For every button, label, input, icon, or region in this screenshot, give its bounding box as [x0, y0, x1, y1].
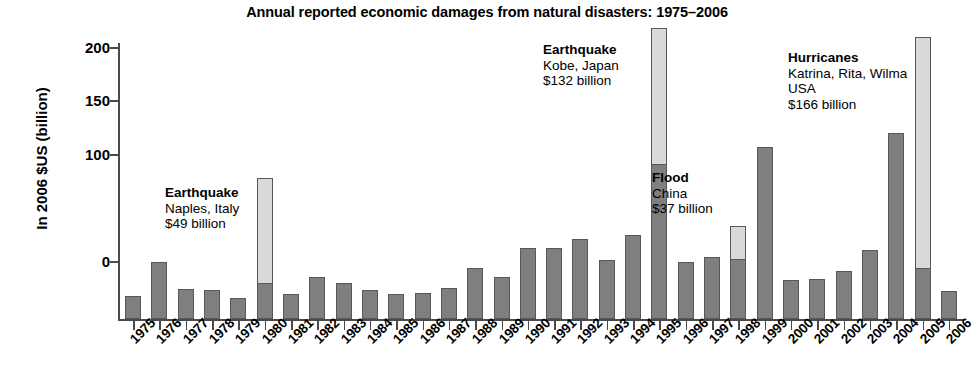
- annotation-china-flood: FloodChina$37 billion: [652, 170, 713, 217]
- chart-title: Annual reported economic damages from na…: [0, 4, 974, 20]
- bar-segment-base: [625, 235, 641, 319]
- annotation-title: Earthquake: [165, 185, 239, 201]
- annotation-line: $132 billion: [543, 73, 619, 89]
- bar-segment-base: [599, 260, 615, 319]
- annotation-line: China: [652, 186, 713, 202]
- bar-segment-base: [388, 294, 404, 319]
- bar-segment-base: [546, 248, 562, 319]
- y-axis-tick-mark: [110, 261, 119, 263]
- annotation-line: Katrina, Rita, Wilma: [788, 66, 907, 82]
- y-axis-tick: 0: [34, 262, 110, 263]
- bar-segment-base: [572, 239, 588, 319]
- bar-segment-highlight: [257, 178, 273, 284]
- y-axis-line: [118, 43, 120, 321]
- y-axis-tick-label: 250: [40, 0, 110, 1]
- bar-segment-base: [441, 288, 457, 319]
- bar-segment-base: [836, 271, 852, 319]
- bar-segment-base: [362, 290, 378, 319]
- annotation-hurricanes: HurricanesKatrina, Rita, WilmaUSA$166 bi…: [788, 50, 907, 112]
- bar-segment-base: [230, 298, 246, 319]
- annotation-title: Earthquake: [543, 42, 619, 58]
- bar-segment-base: [520, 248, 536, 319]
- bar-segment-base: [415, 293, 431, 319]
- bar-segment-base: [467, 268, 483, 319]
- bar-segment-base: [809, 279, 825, 319]
- annotation-line: $166 billion: [788, 97, 907, 113]
- y-axis-tick-label: 0: [40, 254, 110, 269]
- y-axis-tick: 200: [34, 48, 110, 49]
- bar-segment-base: [678, 262, 694, 319]
- y-axis-tick-mark: [110, 154, 119, 156]
- annotation-line: $37 billion: [652, 201, 713, 217]
- bar-segment-base: [494, 277, 510, 319]
- bar-segment-base: [151, 262, 167, 319]
- annotation-line: $49 billion: [165, 216, 239, 232]
- bar-segment-highlight: [915, 37, 931, 270]
- bar-segment-base: [309, 277, 325, 319]
- bar-segment-base: [204, 290, 220, 319]
- annotation-line: Naples, Italy: [165, 201, 239, 217]
- y-axis-tick-label: 100: [40, 147, 110, 162]
- bar-segment-base: [783, 280, 799, 319]
- annotation-title: Hurricanes: [788, 50, 907, 66]
- bar-segment-base: [283, 294, 299, 319]
- annotation-title: Flood: [652, 170, 713, 186]
- bar-segment-base: [257, 283, 273, 319]
- y-axis-tick-mark: [110, 47, 119, 49]
- bar-segment-highlight: [651, 28, 667, 165]
- bar-segment-base: [862, 250, 878, 319]
- bar-segment-base: [888, 133, 904, 319]
- annotation-line: USA: [788, 81, 907, 97]
- bar-segment-base: [757, 147, 773, 319]
- bar-segment-base: [125, 296, 141, 319]
- bar-segment-base: [704, 257, 720, 319]
- y-axis-tick-label: 200: [40, 40, 110, 55]
- bar-segment-base: [730, 259, 746, 319]
- bar-segment-base: [336, 283, 352, 319]
- y-axis-tick-label: 150: [40, 93, 110, 108]
- y-axis-tick: 150: [34, 101, 110, 102]
- bar-segment-highlight: [730, 226, 746, 260]
- bar-segment-base: [178, 289, 194, 319]
- annotation-naples: EarthquakeNaples, Italy$49 billion: [165, 185, 239, 232]
- annotation-line: Kobe, Japan: [543, 58, 619, 74]
- bar-segment-base: [941, 291, 957, 319]
- y-axis-tick: 100: [34, 155, 110, 156]
- bar-segment-base: [915, 268, 931, 319]
- economic-damages-bar-chart: Annual reported economic damages from na…: [0, 0, 974, 368]
- y-axis-tick-mark: [110, 100, 119, 102]
- annotation-kobe: EarthquakeKobe, Japan$132 billion: [543, 42, 619, 89]
